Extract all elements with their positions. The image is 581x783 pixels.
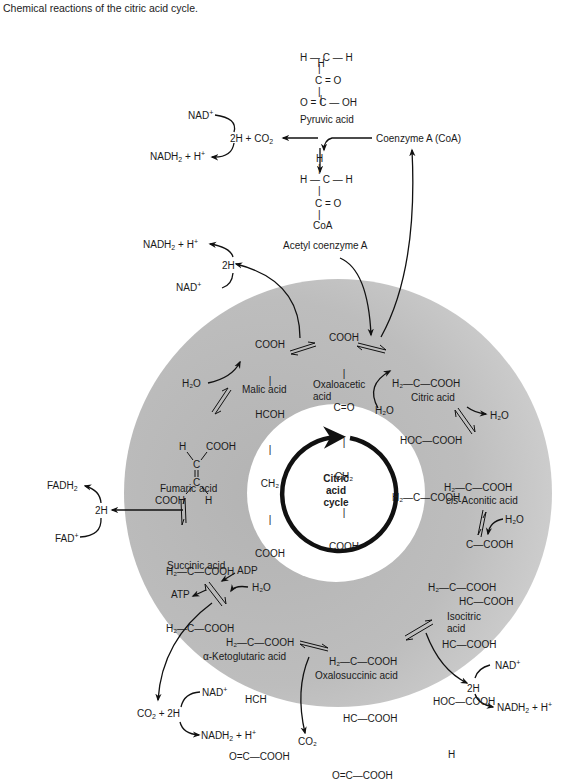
oxaloacetic-acid-label: Oxaloacetic acid <box>313 379 365 403</box>
alpha-ketoglutaric-acid-structure: H₂—C—COOH HCH O=C—COOH <box>226 595 294 783</box>
oxalosuccinic-acid-label: Oxalosuccinic acid <box>315 670 398 681</box>
nad-isocitric: NAD+ <box>495 660 520 671</box>
fumaric-h-bottom: H <box>205 495 212 506</box>
fumaric-cooh-bottom: COOH <box>155 495 185 506</box>
water-succinyl: H₂O <box>252 582 271 593</box>
isocitric-acid-structure: H₂—C—COOH HC—COOH HOC—COOH H <box>428 540 496 780</box>
fumaric-acid-label: Fumaric acid <box>160 483 217 494</box>
co2-2h-ketoglutarate: CO2 + 2H <box>137 708 180 719</box>
water-citric-in: H₂O <box>375 405 394 416</box>
co2-oxalosuccinic: CO₂ <box>298 736 317 747</box>
nadh-ketoglutarate: NADH2 + H+ <box>201 730 256 741</box>
acetyl-bond-2: | <box>318 209 321 220</box>
water-isocitric: H₂O <box>505 514 524 525</box>
malic-acid-label: Malic acid <box>242 384 286 395</box>
adp-label: ADP <box>237 565 258 576</box>
pyruvic-cooh-row: O = C — OH <box>300 97 357 108</box>
nad-plus-top: NAD+ <box>188 110 213 121</box>
acetyl-coa-label: Acetyl coenzyme A <box>283 240 367 251</box>
fumaric-cooh-top: COOH <box>206 441 236 452</box>
succinic-acid-label: Succinic acid <box>167 560 225 571</box>
nad-malate: NAD+ <box>176 282 201 293</box>
acetyl-bond-0: | <box>318 163 321 174</box>
acetyl-ch-row: H — C — H <box>300 174 353 185</box>
fadh2-label: FADH2 <box>47 480 78 491</box>
water-citric-out: H₂O <box>490 410 509 421</box>
nadh-isocitric: NADH2 + H+ <box>497 702 552 713</box>
2h-malate: 2H <box>222 260 235 271</box>
oxalosuccinic-acid-structure: H₂—C—COOH HC—COOH O=C—COOH <box>329 614 397 783</box>
malic-acid-structure: COOH | HCOH | CH₂ | COOH <box>250 314 290 573</box>
nadh-malate: NADH2 + H+ <box>143 239 198 250</box>
pyruvic-co-row: C = O <box>315 75 341 86</box>
fad-label: FAD+ <box>55 533 79 544</box>
nad-ketoglutarate: NAD+ <box>202 687 227 698</box>
2h-isocitric: 2H <box>467 683 480 694</box>
cycle-center-label: Citric acid cycle <box>306 473 366 509</box>
oxaloacetic-acid-structure: COOH | C=O | CH₂ | COOH <box>324 307 364 566</box>
cis-aconitic-acid-label: cis-Aconitic acid <box>446 495 518 506</box>
acetyl-coa-row: CoA <box>313 220 332 231</box>
pyruvic-bond-2: | <box>318 86 321 97</box>
water-malic: H₂O <box>182 378 201 389</box>
coenzyme-a-label: Coenzyme A (CoA) <box>376 133 461 144</box>
citric-acid-label: Citric acid <box>411 392 455 403</box>
acetyl-bond-1: | <box>318 185 321 196</box>
succinic-acid-structure: H₂—C—COOH H₂—C—COOH <box>166 524 234 657</box>
2h-co2-product: 2H + CO2 <box>230 133 273 144</box>
2h-succinate: 2H <box>95 505 108 516</box>
pyruvic-ch-row: H — C — H <box>300 52 353 63</box>
nadh-top: NADH2 + H+ <box>150 151 205 162</box>
pyruvic-bond-1: | <box>318 63 321 74</box>
fumaric-h-top: H <box>179 441 186 452</box>
acetyl-co-row: C = O <box>315 198 341 209</box>
pyruvic-acid-label: Pyruvic acid <box>300 114 354 125</box>
isocitric-acid-label: Isocitric acid <box>447 611 481 635</box>
fumaric-c-1: C <box>193 459 200 470</box>
